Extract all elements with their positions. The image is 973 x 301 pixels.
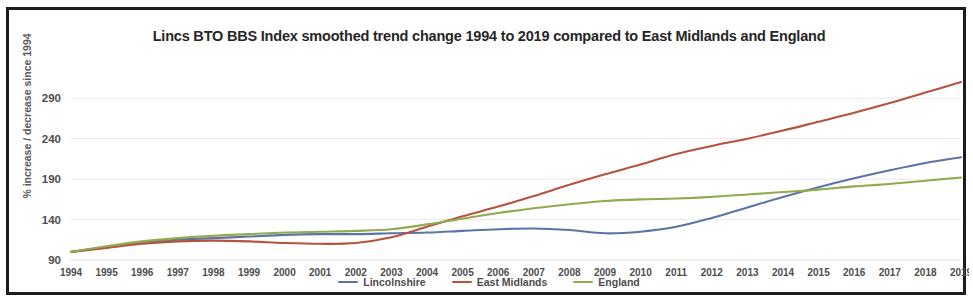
legend-item-england[interactable]: England (573, 276, 639, 288)
y-tick-label: 90 (48, 254, 61, 266)
legend-item-east-midlands[interactable]: East Midlands (452, 276, 548, 288)
y-tick-label: 240 (42, 133, 61, 145)
y-tick-label: 290 (42, 92, 61, 104)
series-lines-group (71, 82, 961, 252)
chart-legend: LincolnshireEast MidlandsEngland (9, 276, 969, 288)
series-line-lincolnshire (71, 157, 961, 252)
y-tick-label: 140 (42, 214, 61, 226)
legend-swatch-icon (452, 281, 472, 284)
chart-frame: Lincs BTO BBS Index smoothed trend chang… (6, 7, 966, 295)
legend-item-lincolnshire[interactable]: Lincolnshire (338, 276, 425, 288)
y-tick-labels-group: 90140190240290 (42, 92, 61, 266)
legend-label: Lincolnshire (363, 276, 425, 288)
legend-swatch-icon (573, 281, 593, 284)
line-chart-plot: 90140190240290 1994199519961997199819992… (9, 10, 969, 298)
legend-swatch-icon (338, 281, 358, 284)
legend-label: East Midlands (477, 276, 548, 288)
y-tick-label: 190 (42, 173, 61, 185)
chart-card: Lincs BTO BBS Index smoothed trend chang… (0, 0, 973, 301)
legend-label: England (598, 276, 639, 288)
series-line-east-midlands (71, 82, 961, 252)
